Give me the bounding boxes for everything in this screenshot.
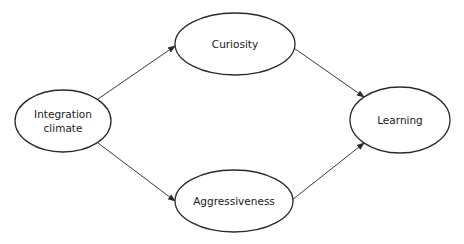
node-label-line: Aggressiveness (193, 195, 275, 207)
node-label-line: Integration (34, 108, 92, 120)
edge-integration-to-aggressiveness (98, 143, 175, 201)
node-aggressiveness: Aggressiveness (175, 170, 293, 232)
node-label-line: climate (44, 122, 83, 134)
node-curiosity-label: Curiosity (212, 38, 258, 50)
node-label-line: Learning (377, 114, 423, 126)
edge-integration-to-curiosity (98, 46, 175, 99)
node-learning-label: Learning (377, 114, 423, 126)
node-label-line: Curiosity (212, 38, 258, 50)
node-integration-climate-shape (15, 90, 111, 152)
node-aggressiveness-label: Aggressiveness (193, 195, 275, 207)
edge-curiosity-to-learning (291, 46, 364, 97)
diagram-canvas: Integrationclimate Curiosity Aggressiven… (0, 0, 464, 244)
node-learning: Learning (350, 87, 450, 153)
node-curiosity: Curiosity (175, 13, 295, 75)
node-integration-climate: Integrationclimate (15, 90, 111, 152)
path-diagram: Integrationclimate Curiosity Aggressiven… (0, 0, 464, 244)
edge-aggressiveness-to-learning (292, 143, 364, 200)
